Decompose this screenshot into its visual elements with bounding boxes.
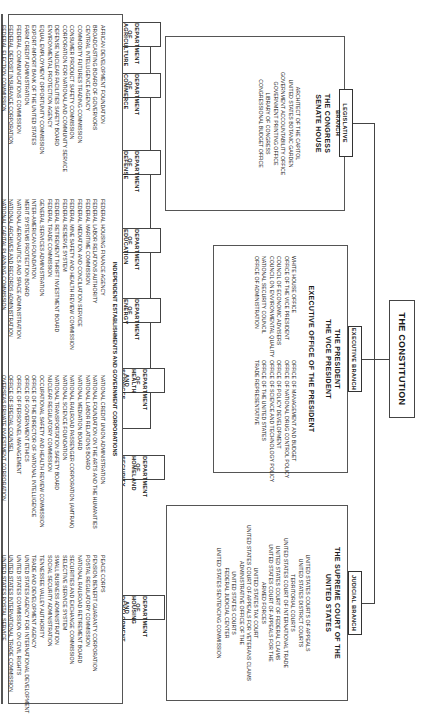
dept-connector xyxy=(150,47,151,60)
page-title: THE CONSTITUTION xyxy=(396,301,407,417)
legislative-branch-box[interactable]: LEGISLATIVE BRANCH xyxy=(339,89,353,157)
list-item: NATIONAL ARCHIVES AND RECORDS ADMINISTRA… xyxy=(7,199,15,374)
legislative-agency-list: ARCHITECT OF THE CAPITOL UNITED STATES B… xyxy=(257,36,301,211)
dept-connector xyxy=(150,253,151,298)
list-item: NATIONAL TRANSPORTATION SAFETY BOARD xyxy=(53,375,61,555)
list-item: POSTAL REGULATORY COMMISSION xyxy=(83,555,91,700)
list-item: ADMINISTRATIVE OFFICE OF THE xyxy=(237,505,244,701)
list-item: OCCUPATIONAL SAFETY AND HEALTH REVIEW CO… xyxy=(37,375,45,555)
list-item: FEDERAL DEPOSIT INSURANCE CORPORATION xyxy=(7,25,15,195)
list-item: PENSION BENEFIT GUARANTY CORPORATION xyxy=(91,555,99,700)
list-item: WHITE HOUSE OFFICE xyxy=(290,256,297,366)
list-item: OFFICE OF MANAGEMENT AND BUDGET xyxy=(290,360,297,475)
dept-label-line2: ENERGY xyxy=(122,299,129,322)
judicial-heads: THE SUPREME COURT OF THE UNITED STATES xyxy=(324,505,342,701)
list-item: UNITED STATES POSTAL SERVICE xyxy=(0,555,7,700)
list-item: OFFICE OF ADMINISTRATION xyxy=(253,256,260,366)
list-item: OFFICE OF PERSONNEL MANAGEMENT xyxy=(14,375,22,555)
dept-label-line2: HOMELAND xyxy=(130,456,137,479)
list-item: SELECTIVE SERVICE SYSTEM xyxy=(60,555,68,700)
senate-house-label: SENATE HOUSE xyxy=(314,36,323,211)
list-item: NATIONAL RAILROAD RETIREMENT BOARD xyxy=(75,555,83,700)
constitution-box: THE CONSTITUTION xyxy=(389,300,415,418)
list-item: FEDERAL RESERVE SYSTEM xyxy=(60,199,68,374)
exec-drop xyxy=(362,359,375,360)
legislative-heads: THE CONGRESS SENATE HOUSE xyxy=(314,36,332,211)
list-item: FEDERAL MARITIME COMMISSION xyxy=(83,199,91,374)
trunk-hline xyxy=(374,123,375,603)
independent-establishments-panel: INDEPENDENT ESTABLISHMENTS AND GOVERNMEN… xyxy=(8,14,123,704)
eop-header: EXECUTIVE OFFICE OF THE PRESIDENT xyxy=(306,245,315,473)
list-item: UNITED STATES TAX COURT xyxy=(252,505,259,701)
list-item: DEFENSE NUCLEAR FACILITIES SAFETY BOARD xyxy=(53,25,61,195)
list-item: GOVERNMENT PRINTING OFFICE xyxy=(272,36,279,211)
list-item: UNITED STATES BOTANIC GARDEN xyxy=(286,36,293,211)
list-item: OFFICE OF SCIENCE AND TECHNOLOGY POLICY xyxy=(268,360,275,475)
list-item: OFFICE OF GOVERNMENT ETHICS xyxy=(22,375,30,555)
list-item: OFFICE OF THE UNITED STATES xyxy=(260,360,267,475)
list-item: OFFICE OF SPECIAL COUNSEL xyxy=(7,375,15,555)
list-item: OVERSEAS PRIVATE INVESTMENT CORPORATION xyxy=(0,375,7,555)
list-item: FEDERAL RETIREMENT THRIFT INVESTMENT BOA… xyxy=(53,199,61,374)
list-item: GENERAL SERVICES ADMINISTRATION xyxy=(37,199,45,374)
supreme-court-label-1: THE SUPREME COURT OF THE xyxy=(332,505,341,701)
list-item: UNITED STATES COURT OF APPEALS FOR THE xyxy=(267,505,274,701)
list-item: UNITED STATES COURT OF FEDERAL CLAIMS xyxy=(274,505,281,701)
list-item: UNITED STATES COURTS OF APPEALS xyxy=(304,505,311,701)
independent-agency-column-1: AFRICAN DEVELOPMENT FOUNDATIONBROADCASTI… xyxy=(0,25,106,195)
list-item: NATIONAL MEDIATION BOARD xyxy=(75,375,83,555)
dept-connector xyxy=(150,393,151,428)
leg-drop xyxy=(353,123,375,124)
list-item: UNITED STATES AGENCY FOR INTERNATIONAL D… xyxy=(22,555,30,700)
list-item: NATIONAL CREDIT UNION ADMINISTRATION xyxy=(98,375,106,555)
list-item: NUCLEAR REGULATORY COMMISSION xyxy=(45,375,53,555)
list-item: COUNCIL ON ENVIRONMENTAL QUALITY xyxy=(268,256,275,366)
dept-connector xyxy=(150,175,151,228)
list-item: NATIONAL SCIENCE FOUNDATION xyxy=(60,375,68,555)
list-item: UNITED STATES DISTRICT COURTS xyxy=(296,505,303,701)
list-item: OFFICE OF NATIONAL DRUG CONTROL POLICY xyxy=(282,360,289,475)
list-item: FEDERAL MINE SAFETY AND HEALTH REVIEW CO… xyxy=(68,199,76,374)
list-item: TRADE REPRESENTATIVE xyxy=(253,360,260,475)
list-item: COMMODITY FUTURES TRADING COMMISSION xyxy=(75,25,83,195)
judicial-branch-label: JUDICIAL BRANCH xyxy=(350,572,357,634)
list-item: TERRITORIAL COURTS xyxy=(289,505,296,701)
legislative-branch-label: LEGISLATIVE BRANCH xyxy=(334,90,348,156)
list-item: MERIT SYSTEMS PROTECTION BOARD xyxy=(22,199,30,374)
list-item: SMALL BUSINESS ADMINISTRATION xyxy=(53,555,61,700)
list-item: PEACE CORPS xyxy=(98,555,106,700)
dept-label-line2: EDUCATION xyxy=(122,229,129,252)
list-item: FEDERAL TRADE COMMISSION xyxy=(45,199,53,374)
executive-branch-box[interactable]: EXECUTIVE BRANCH xyxy=(348,326,362,392)
dept-row1-feeder xyxy=(123,428,151,429)
the-president-label: THE PRESIDENT xyxy=(332,245,341,473)
list-item: FEDERAL LABOR RELATIONS AUTHORITY xyxy=(91,199,99,374)
list-item: NATIONAL RAILROAD PASSENGER CORPORATION … xyxy=(68,375,76,555)
supreme-court-label-2: UNITED STATES xyxy=(324,505,333,701)
list-item: FARM CREDIT ADMINISTRATION xyxy=(22,25,30,195)
list-item: BROADCASTING BOARD OF GOVERNORS xyxy=(91,25,99,195)
the-vice-president-label: THE VICE PRESIDENT xyxy=(324,245,333,473)
judicial-branch-box[interactable]: JUDICIAL BRANCH xyxy=(348,571,362,635)
executive-branch-label: EXECUTIVE BRANCH xyxy=(350,327,357,391)
eop-right-list: OFFICE OF MANAGEMENT AND BUDGET OFFICE O… xyxy=(253,360,297,475)
list-item: OFFICE OF THE DIRECTOR OF NATIONAL INTEL… xyxy=(30,375,38,555)
list-item: ARCHITECT OF THE CAPITOL xyxy=(294,36,301,211)
list-item: NATIONAL AERONAUTICS AND SPACE ADMINISTR… xyxy=(14,199,22,374)
list-item: SOCIAL SECURITY ADMINISTRATION xyxy=(45,555,53,700)
list-item: ARMED FORCES xyxy=(259,505,266,701)
list-item: NATIONAL FOUNDATION ON THE ARTS AND THE … xyxy=(91,375,99,555)
list-item: OFFICE OF THE VICE PRESIDENT xyxy=(282,256,289,366)
list-item: UNITED STATES COMMISSION ON CIVIL RIGHTS xyxy=(14,555,22,700)
executive-heads: THE PRESIDENT THE VICE PRESIDENT xyxy=(324,245,342,473)
list-item: CONSUMER PRODUCT SAFETY COMMISSION xyxy=(68,25,76,195)
list-item: AFRICAN DEVELOPMENT FOUNDATION xyxy=(98,25,106,195)
list-item: CONGRESSIONAL BUDGET OFFICE xyxy=(257,36,264,211)
list-item: UNITED STATES COURT OF INTERNATIONAL TRA… xyxy=(282,505,289,701)
independent-agency-column-4: PEACE CORPSPENSION BENEFIT GUARANTY CORP… xyxy=(0,555,106,700)
independent-agency-column-3: NATIONAL CREDIT UNION ADMINISTRATIONNATI… xyxy=(0,375,106,555)
dept-label-line2: DEFENSE xyxy=(122,151,129,174)
list-item: EXPORT-IMPORT BANK OF THE UNITED STATES xyxy=(30,25,38,195)
list-item: INTER-AMERICAN FOUNDATION xyxy=(30,199,38,374)
list-item: UNITED STATES COURTS xyxy=(230,505,237,701)
